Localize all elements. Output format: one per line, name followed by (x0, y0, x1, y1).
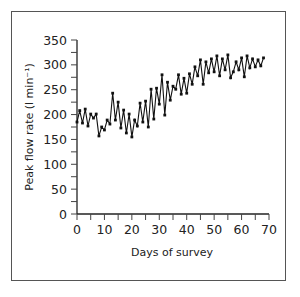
data-point-marker (218, 74, 221, 77)
data-point-marker (199, 58, 202, 61)
data-point-marker (161, 73, 164, 76)
data-point-marker (259, 64, 262, 67)
plot-area (76, 54, 265, 139)
data-point-marker (139, 102, 142, 105)
data-point-marker (119, 127, 122, 130)
data-point-marker (100, 126, 103, 129)
data-point-marker (213, 70, 216, 73)
data-point-marker (224, 68, 227, 71)
data-point-marker (180, 93, 183, 96)
data-point-marker (243, 75, 246, 78)
data-point-marker (150, 88, 153, 91)
data-point-marker (155, 87, 158, 90)
data-point-marker (76, 121, 79, 124)
data-line (77, 55, 264, 137)
data-point-marker (136, 125, 139, 128)
data-point-marker (237, 68, 240, 71)
data-point-marker (130, 136, 133, 139)
data-point-marker (251, 57, 254, 60)
x-tick-label: 20 (124, 222, 140, 237)
x-tick-label: 30 (151, 222, 167, 237)
data-point-marker (240, 56, 243, 59)
data-point-marker (177, 73, 180, 76)
x-tick-label: 70 (261, 222, 277, 237)
data-point-marker (174, 88, 177, 91)
x-tick-label: 40 (179, 222, 195, 237)
data-point-marker (95, 113, 98, 116)
data-point-marker (128, 113, 131, 116)
y-tick-label: 250 (43, 82, 67, 97)
data-point-marker (188, 72, 191, 75)
data-point-marker (114, 119, 117, 122)
y-axis-title: Peak flow rate (l min⁻¹) (23, 63, 36, 191)
data-point-marker (215, 55, 218, 58)
x-tick-label: 10 (96, 222, 112, 237)
y-tick-label: 200 (43, 107, 67, 122)
data-point-marker (191, 83, 194, 86)
data-point-marker (92, 117, 95, 120)
data-point-marker (248, 66, 251, 69)
data-point-marker (84, 108, 87, 111)
x-tick-label: 50 (206, 222, 222, 237)
data-point-marker (207, 71, 210, 74)
x-tick-label: 60 (234, 222, 250, 237)
data-point-marker (232, 70, 235, 73)
y-tick-label: 150 (43, 132, 67, 147)
data-point-marker (163, 114, 166, 117)
data-point-marker (254, 65, 257, 68)
x-tick-label: 0 (73, 222, 81, 237)
data-point-marker (111, 92, 114, 95)
data-point-marker (235, 60, 238, 63)
data-point-marker (147, 126, 150, 129)
data-point-marker (141, 121, 144, 124)
data-point-marker (226, 54, 229, 57)
data-point-marker (78, 109, 81, 112)
data-point-marker (205, 60, 208, 63)
data-point-marker (202, 83, 205, 86)
data-point-marker (169, 99, 172, 102)
data-point-marker (81, 122, 84, 125)
data-point-marker (172, 85, 175, 88)
data-point-marker (262, 56, 265, 59)
data-point-marker (194, 65, 197, 68)
data-point-marker (257, 58, 260, 61)
data-point-marker (133, 119, 136, 122)
y-tick-label: 50 (51, 182, 67, 197)
data-point-marker (158, 103, 161, 106)
data-point-marker (166, 81, 169, 84)
data-point-marker (196, 74, 199, 77)
data-point-marker (89, 113, 92, 116)
y-tick-label: 300 (43, 57, 67, 72)
data-point-marker (109, 123, 112, 126)
data-point-marker (210, 57, 213, 60)
x-axis-title: Days of survey (131, 246, 214, 259)
data-point-marker (117, 101, 120, 104)
data-point-marker (221, 57, 224, 60)
data-point-marker (125, 132, 128, 135)
data-point-marker (87, 125, 90, 128)
data-point-marker (183, 77, 186, 80)
data-point-marker (185, 92, 188, 95)
y-tick-label: 100 (43, 157, 67, 172)
data-point-marker (103, 129, 106, 132)
data-point-marker (144, 100, 147, 103)
data-point-marker (106, 119, 109, 122)
y-tick-label: 0 (59, 207, 67, 222)
data-point-marker (246, 55, 249, 58)
data-point-marker (229, 76, 232, 79)
y-tick-label: 350 (43, 33, 67, 48)
data-point-marker (152, 118, 155, 121)
data-point-marker (122, 109, 125, 112)
data-point-marker (98, 135, 101, 138)
line-chart: 050100150200250300350010203040506070 Day… (0, 0, 300, 297)
